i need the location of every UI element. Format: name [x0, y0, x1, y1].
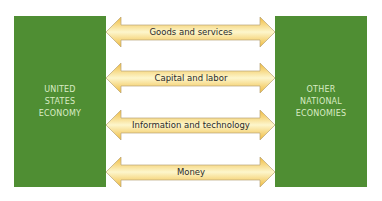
flow-label-money: Money [121, 166, 261, 178]
flow-label-capital-labor: Capital and labor [121, 72, 261, 84]
flow-label-goods-services: Goods and services [121, 26, 261, 38]
flow-label-information-technology: Information and technology [121, 119, 261, 131]
